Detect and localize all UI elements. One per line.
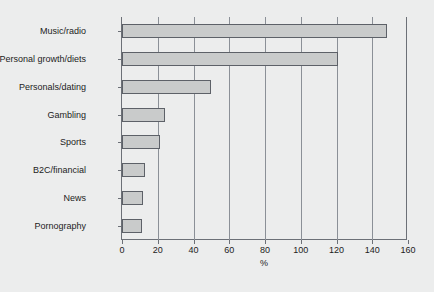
category-label: Sports: [0, 137, 86, 147]
x-axis-tick: [408, 240, 409, 244]
x-axis-tick-label: 140: [352, 245, 392, 256]
x-axis-tick: [122, 240, 123, 244]
bar-row: News: [122, 184, 406, 212]
y-axis-tick: [118, 31, 122, 32]
x-axis-tick: [158, 240, 159, 244]
category-label: B2C/financial: [0, 165, 86, 175]
bar-row: Music/radio: [122, 17, 406, 45]
bar-row: B2C/financial: [122, 156, 406, 184]
x-axis-title: %: [121, 258, 407, 268]
bar-row: Personals/dating: [122, 73, 406, 101]
y-axis-tick: [118, 87, 122, 88]
x-axis-tick: [301, 240, 302, 244]
x-axis-tick-label: 20: [138, 245, 178, 256]
bar: [122, 108, 165, 122]
plot-area: 020406080100120140160Music/radioPersonal…: [121, 17, 407, 240]
bar-row: Personal growth/diets: [122, 45, 406, 73]
bar-chart: 020406080100120140160Music/radioPersonal…: [0, 0, 434, 292]
category-label: Personals/dating: [0, 82, 86, 92]
x-axis-tick-label: 80: [245, 245, 285, 256]
x-axis-tick-label: 160: [388, 245, 428, 256]
x-axis-tick-label: 100: [281, 245, 321, 256]
bar: [122, 52, 338, 66]
y-axis-tick: [118, 226, 122, 227]
y-axis-tick: [118, 170, 122, 171]
x-axis-tick-label: 40: [174, 245, 214, 256]
x-axis-tick: [194, 240, 195, 244]
bar-row: Pornography: [122, 212, 406, 240]
x-axis-tick-label: 120: [317, 245, 357, 256]
category-label: News: [0, 193, 86, 203]
bar: [122, 24, 387, 38]
bar: [122, 219, 142, 233]
y-axis-tick: [118, 198, 122, 199]
bar-row: Gambling: [122, 101, 406, 129]
y-axis-tick: [118, 59, 122, 60]
y-axis-tick: [118, 115, 122, 116]
x-axis-tick: [337, 240, 338, 244]
bar: [122, 80, 211, 94]
bar: [122, 163, 145, 177]
bar: [122, 135, 160, 149]
category-label: Personal growth/diets: [0, 54, 86, 64]
y-axis-tick: [118, 142, 122, 143]
x-axis-tick: [229, 240, 230, 244]
bar: [122, 191, 143, 205]
x-axis-tick: [265, 240, 266, 244]
x-axis-tick-label: 0: [102, 245, 142, 256]
category-label: Music/radio: [0, 26, 86, 36]
category-label: Pornography: [0, 221, 86, 231]
x-axis-tick-label: 60: [209, 245, 249, 256]
x-axis-tick: [372, 240, 373, 244]
category-label: Gambling: [0, 110, 86, 120]
bar-row: Sports: [122, 129, 406, 157]
